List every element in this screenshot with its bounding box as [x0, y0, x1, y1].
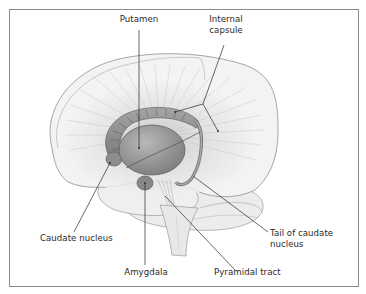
- brain-stem: [160, 205, 198, 256]
- label-tail-of-caudate: Tail of caudate nucleus: [270, 228, 333, 250]
- label-tail-of-caudate-line2: nucleus: [270, 239, 333, 250]
- label-internal-capsule-line2: capsule: [203, 25, 249, 36]
- label-internal-capsule-line1: Internal: [203, 14, 249, 25]
- label-putamen: Putamen: [116, 14, 162, 25]
- label-caudate-nucleus: Caudate nucleus: [40, 233, 113, 244]
- label-pyramidal-tract: Pyramidal tract: [214, 267, 281, 278]
- label-amygdala: Amygdala: [118, 267, 174, 278]
- label-internal-capsule: Internal capsule: [203, 14, 249, 36]
- cerebral-hemisphere: [50, 54, 278, 197]
- label-tail-of-caudate-line1: Tail of caudate: [270, 228, 333, 239]
